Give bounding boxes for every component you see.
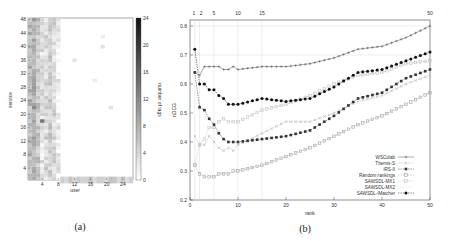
- heatmap-cell: [56, 163, 60, 167]
- heatmap-cell: [44, 45, 48, 49]
- heatmap-cell: [40, 82, 44, 86]
- heatmap-cell: [48, 143, 52, 147]
- heatmap-cell: [48, 109, 52, 113]
- heatmap-cell: [28, 28, 32, 32]
- heatmap-cell: [48, 92, 52, 96]
- heatmap-cell: [36, 25, 40, 29]
- heatmap-xtick: 24: [120, 181, 126, 187]
- heatmap-ytick: 40: [20, 43, 26, 49]
- heatmap-cell: [40, 96, 44, 100]
- heatmap-cell: [40, 48, 44, 52]
- heatmap-cell: [52, 126, 56, 130]
- heatmap-cell: [52, 82, 56, 86]
- line-xtick: 10: [235, 202, 241, 208]
- heatmap-cell: [40, 136, 44, 140]
- heatmap-cell: [28, 52, 32, 56]
- heatmap-cell: [48, 167, 52, 171]
- line-top-tick: 10: [235, 10, 241, 16]
- heatmap-cell: [56, 140, 60, 144]
- heatmap-cell: [40, 170, 44, 174]
- heatmap-cell: [28, 136, 32, 140]
- line-top-tick: 50: [427, 10, 433, 16]
- heatmap-cell: [44, 75, 48, 79]
- heatmap-cell: [32, 126, 36, 130]
- heatmap-ytick: 36: [20, 57, 26, 63]
- heatmap-cell: [44, 106, 48, 110]
- heatmap-cell: [28, 62, 32, 66]
- heatmap-cell: [56, 62, 60, 66]
- heatmap-cell: [40, 146, 44, 150]
- heatmap-cell: [48, 106, 52, 110]
- heatmap-cell: [36, 48, 40, 52]
- heatmap-ytick: 20: [20, 111, 26, 117]
- heatmap-cell: [56, 133, 60, 137]
- heatmap-cell: [56, 89, 60, 93]
- heatmap-xtick: 16: [88, 181, 94, 187]
- heatmap-cell: [32, 89, 36, 93]
- heatmap-cell: [28, 42, 32, 46]
- heatmap-cell: [48, 79, 52, 83]
- heatmap-cell: [48, 48, 52, 52]
- line-xlabel: rank: [305, 210, 315, 216]
- heatmap-ytick: 28: [20, 84, 26, 90]
- heatmap-cell: [56, 21, 60, 25]
- heatmap-cell: [56, 123, 60, 127]
- heatmap-cell: [52, 75, 56, 79]
- heatmap-cell: [40, 28, 44, 32]
- heatmap-cell: [32, 133, 36, 137]
- heatmap-cell: [44, 113, 48, 117]
- heatmap-cell: [56, 72, 60, 76]
- heatmap-cell: [44, 69, 48, 73]
- heatmap-cell: [32, 86, 36, 90]
- figure: 4812162024 4812162024283236404448 user s…: [0, 0, 450, 241]
- line-xtick: 40: [379, 202, 385, 208]
- heatmap-cell: [36, 79, 40, 83]
- heatmap-cell: [40, 55, 44, 59]
- heatmap-cell: [36, 116, 40, 120]
- heatmap-cell: [28, 123, 32, 127]
- heatmap-cell: [48, 65, 52, 69]
- heatmap-cell: [56, 59, 60, 63]
- heatmap-cell: [52, 86, 56, 90]
- heatmap-cell: [40, 167, 44, 171]
- heatmap-cell: [48, 38, 52, 42]
- heatmap-cell: [36, 170, 40, 174]
- heatmap-cell: [52, 62, 56, 66]
- heatmap-cell: [36, 99, 40, 103]
- heatmap-cell: [32, 55, 36, 59]
- heatmap-cell: [48, 136, 52, 140]
- heatmap-cell: [28, 75, 32, 79]
- heatmap-cell: [32, 160, 36, 164]
- heatmap-cell: [52, 52, 56, 56]
- heatmap-cell: [28, 150, 32, 154]
- heatmap-cell: [36, 136, 40, 140]
- heatmap-cell: [52, 119, 56, 123]
- heatmap-cell: [48, 123, 52, 127]
- heatmap-cell: [48, 177, 52, 181]
- heatmap-cell: [32, 79, 36, 83]
- heatmap-cell: [36, 55, 40, 59]
- line-ytick: 0.6: [180, 81, 187, 87]
- heatmap-cell: [56, 86, 60, 90]
- heatmap-cell: [72, 59, 76, 63]
- heatmap-cell: [56, 79, 60, 83]
- heatmap-cell: [56, 102, 60, 106]
- heatmap-cell: [40, 32, 44, 36]
- line-top-tick: 15: [259, 10, 265, 16]
- heatmap-cell: [44, 18, 48, 22]
- heatmap-cell: [48, 59, 52, 63]
- legend-label: SAWSDL-MX2: [365, 185, 396, 190]
- heatmap-cell: [32, 99, 36, 103]
- heatmap-cell: [52, 177, 56, 181]
- legend-label: SAWSDL-MX1: [365, 179, 396, 184]
- heatmap-cell: [44, 109, 48, 113]
- heatmap-cell: [48, 146, 52, 150]
- heatmap-cell: [40, 129, 44, 133]
- heatmap-cell: [40, 109, 44, 113]
- line-ytick: 0.5: [180, 110, 187, 116]
- heatmap-cell: [36, 62, 40, 66]
- heatmap-cell: [40, 160, 44, 164]
- heatmap-cell: [40, 89, 44, 93]
- heatmap-cell: [48, 86, 52, 90]
- heatmap-cell: [32, 106, 36, 110]
